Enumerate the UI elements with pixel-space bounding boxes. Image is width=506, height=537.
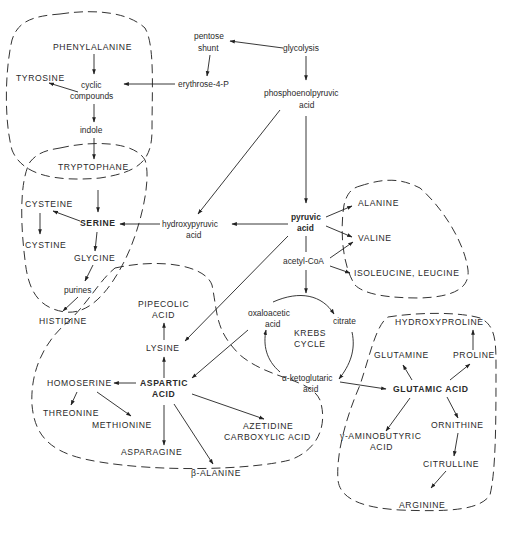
node-azetidine-line2: CARBOXYLIC ACID [224, 432, 311, 443]
node-aspartic-acid-line1: ASPARTIC [140, 378, 188, 389]
node-tyrosine: TYROSINE [16, 73, 65, 84]
node-valine: VALINE [358, 233, 392, 244]
node-cystine: CYSTINE [25, 240, 66, 251]
node-histidine: HISTIDINE [39, 316, 87, 327]
node-phosphoenolpyruvic-line1: phosphoenolpyruvic [264, 88, 339, 99]
node-citrate: citrate [333, 316, 356, 327]
node-acetyl-coa: acetyl-CoA [283, 256, 324, 267]
node-homoserine: HOMOSERINE [47, 378, 112, 389]
node-pipecolic-acid-line2: ACID [152, 310, 175, 321]
node-indole: indole [80, 125, 102, 136]
node-oxaloacetic-line2: acid [265, 319, 280, 330]
node-glutamic-acid: GLUTAMIC ACID [393, 384, 469, 395]
node-tryptophane: TRYPTOPHANE [58, 162, 129, 173]
glutamate-family-boundary [338, 313, 496, 510]
node-pentose-shunt-line1: pentose [194, 31, 224, 42]
node-cyclic-compounds-line1: cyclic [81, 80, 101, 91]
node-aspartic-acid-line2: ACID [152, 389, 175, 400]
node-asparagine: ASPARAGINE [121, 447, 182, 458]
node-lysine: LYSINE [146, 343, 180, 354]
node-ketoglutaric-line2: acid [303, 384, 318, 395]
node-pentose-shunt-line2: shunt [198, 43, 219, 54]
node-azetidine-line1: AZETIDINE [243, 421, 293, 432]
node-gaba-line2: ACID [370, 442, 393, 453]
node-erythrose-4-p: erythrose-4-P [178, 79, 229, 90]
node-alanine: ALANINE [358, 198, 399, 209]
node-threonine: THREONINE [43, 408, 99, 419]
node-purines: purines [64, 285, 91, 296]
node-glycine: GLYCINE [74, 253, 115, 264]
node-phenylalanine: PHENYLALANINE [53, 42, 132, 53]
node-glutamine: GLUTAMINE [374, 350, 429, 361]
node-serine: SERINE [80, 218, 116, 229]
pathway-diagram: glycolysis pentose shunt erythrose-4-P p… [0, 0, 506, 537]
node-oxaloacetic-line1: oxaloacetic [248, 308, 290, 319]
node-proline: PROLINE [453, 350, 495, 361]
node-glycolysis: glycolysis [283, 43, 319, 54]
node-arginine: ARGININE [399, 500, 445, 511]
node-hydroxyproline: HYDROXYPROLINE [395, 317, 484, 328]
node-cysteine: CYSTEINE [25, 199, 73, 210]
node-cyclic-compounds-line2: compounds [70, 91, 113, 102]
node-ornithine: ORNITHINE [431, 420, 484, 431]
node-ketoglutaric-line1: α-ketoglutaric [282, 373, 332, 384]
node-beta-alanine: β-ALANINE [191, 468, 241, 479]
node-pipecolic-acid-line1: PIPECOLIC [138, 299, 189, 310]
node-hydroxypyruvic-line2: acid [186, 230, 201, 241]
node-pyruvic-acid-line2: acid [297, 223, 314, 234]
node-phosphoenolpyruvic-line2: acid [299, 100, 314, 111]
node-krebs-cycle-line1: KREBS [294, 328, 326, 339]
node-krebs-cycle-line2: CYCLE [294, 339, 326, 350]
node-pyruvic-acid-line1: pyruvic [291, 212, 321, 223]
node-isoleucine-leucine: ISOLEUCINE, LEUCINE [354, 268, 459, 279]
node-hydroxypyruvic-line1: hydroxypyruvic [162, 219, 218, 230]
node-methionine: METHIONINE [92, 420, 152, 431]
node-citrulline: CITRULLINE [423, 459, 479, 470]
node-gaba-line1: γ-AMINOBUTYRIC [340, 431, 421, 442]
